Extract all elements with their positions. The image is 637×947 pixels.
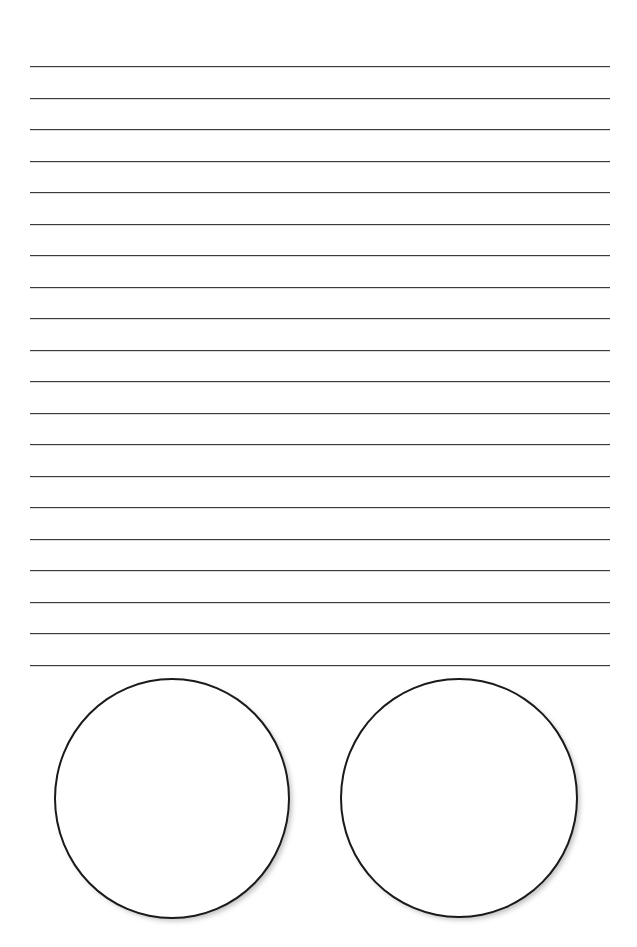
circle-right — [340, 678, 578, 918]
writing-line — [30, 192, 610, 193]
writing-line — [30, 633, 610, 634]
writing-line — [30, 224, 610, 225]
writing-line — [30, 507, 610, 508]
writing-line — [30, 350, 610, 351]
writing-line — [30, 98, 610, 99]
writing-line — [30, 129, 610, 130]
writing-line — [30, 161, 610, 162]
writing-line — [30, 665, 610, 666]
writing-line — [30, 287, 610, 288]
circle-pair-area — [0, 670, 637, 930]
writing-line — [30, 66, 610, 67]
writing-line — [30, 539, 610, 540]
writing-line — [30, 602, 610, 603]
writing-line — [30, 570, 610, 571]
writing-line — [30, 476, 610, 477]
writing-line — [30, 318, 610, 319]
writing-line — [30, 444, 610, 445]
writing-line — [30, 413, 610, 414]
writing-line — [30, 381, 610, 382]
writing-lines-area — [0, 0, 637, 680]
circle-left — [54, 678, 290, 919]
writing-line — [30, 255, 610, 256]
worksheet-page — [0, 0, 637, 947]
